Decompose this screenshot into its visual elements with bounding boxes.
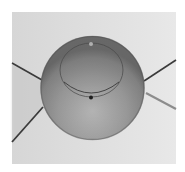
sphere-top-shade [42,37,144,139]
center-dot [89,96,93,100]
sphere [41,36,145,140]
sphere-photograph [0,0,185,172]
top-highlight [89,42,93,46]
